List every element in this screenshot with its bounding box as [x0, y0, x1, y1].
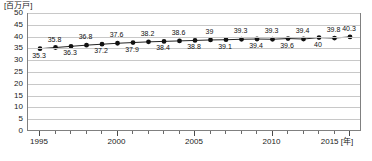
- x-axis-minor-tick: [70, 131, 71, 134]
- data-point-label: 39.4: [296, 27, 310, 34]
- x-axis-minor-tick: [132, 131, 133, 134]
- y-axis-tick-label: 15: [1, 92, 23, 100]
- y-axis-tick-label: 35: [1, 44, 23, 52]
- x-axis-minor-tick: [241, 131, 242, 134]
- x-axis-ticks: [27, 131, 361, 136]
- x-axis-minor-tick: [148, 131, 149, 134]
- gridline: [28, 96, 360, 97]
- data-point-marker: [146, 39, 151, 44]
- gridline: [28, 60, 360, 61]
- data-point-marker: [100, 42, 105, 47]
- y-axis-tick-label: 20: [1, 80, 23, 88]
- plot-area: [27, 13, 361, 131]
- data-point-label: 38.2: [141, 30, 155, 37]
- x-axis-minor-tick: [179, 131, 180, 134]
- x-axis-tick-label: 2005: [185, 137, 203, 146]
- x-axis-minor-tick: [210, 131, 211, 134]
- y-axis-tick-label: 50: [1, 9, 23, 17]
- y-axis-tick-label: 40: [1, 33, 23, 41]
- x-axis-tick-label: 2010: [263, 137, 281, 146]
- data-point-label: 37.2: [94, 47, 108, 54]
- data-point-marker: [177, 39, 182, 44]
- gridline: [28, 13, 360, 14]
- x-axis-major-tick: [194, 131, 195, 136]
- y-axis-tick-label: 5: [1, 115, 23, 123]
- x-axis-tick-label: 2015 [年]: [321, 137, 353, 146]
- x-axis-minor-tick: [225, 131, 226, 134]
- data-point-marker: [193, 38, 198, 43]
- data-point-marker: [115, 41, 120, 46]
- line-chart: [百万戸] 05101520253035404550 1995200020052…: [0, 0, 372, 161]
- data-point-label: 38.6: [172, 29, 186, 36]
- data-point-marker: [208, 38, 213, 43]
- data-point-label: 36.3: [63, 49, 77, 56]
- x-axis-minor-tick: [86, 131, 87, 134]
- y-axis-tick-label: 45: [1, 21, 23, 29]
- data-point-label: 39: [206, 28, 214, 35]
- y-axis-tick-label: 10: [1, 103, 23, 111]
- gridline: [28, 119, 360, 120]
- data-point-marker: [84, 43, 89, 48]
- x-axis-major-tick: [272, 131, 273, 136]
- y-axis-tick-label: 25: [1, 68, 23, 76]
- data-point-marker: [224, 37, 229, 42]
- data-point-marker: [131, 40, 136, 45]
- data-point-label: 39.8: [327, 26, 341, 33]
- x-axis-major-tick: [349, 131, 350, 136]
- data-point-label: 35.8: [48, 36, 62, 43]
- x-axis-minor-tick: [318, 131, 319, 134]
- y-axis-tick-label: 0: [1, 127, 23, 135]
- data-point-label: 38.8: [187, 43, 201, 50]
- series-svg: [28, 14, 362, 132]
- x-axis-major-tick: [39, 131, 40, 136]
- x-axis-minor-tick: [101, 131, 102, 134]
- y-axis-tick-label: 30: [1, 56, 23, 64]
- x-axis-minor-tick: [256, 131, 257, 134]
- data-point-label: 38.4: [156, 44, 170, 51]
- data-point-label: 40.3: [342, 25, 356, 32]
- x-axis-minor-tick: [334, 131, 335, 134]
- x-axis-minor-tick: [287, 131, 288, 134]
- data-point-label: 39.3: [234, 27, 248, 34]
- gridline: [28, 72, 360, 73]
- x-axis-tick-label: 1995: [30, 137, 48, 146]
- gridline: [28, 107, 360, 108]
- data-point-label: 39.1: [218, 43, 232, 50]
- x-axis-minor-tick: [55, 131, 56, 134]
- x-axis-minor-tick: [163, 131, 164, 134]
- data-point-label: 37.6: [110, 31, 124, 38]
- data-point-label: 36.8: [79, 33, 93, 40]
- data-point-label: 35.3: [32, 52, 46, 59]
- gridline: [28, 25, 360, 26]
- x-axis-minor-tick: [303, 131, 304, 134]
- gridline: [28, 84, 360, 85]
- data-point-label: 39.6: [280, 42, 294, 49]
- data-point-marker: [162, 39, 167, 44]
- data-point-label: 39.4: [249, 42, 263, 49]
- data-point-label: 40: [314, 41, 322, 48]
- data-point-label: 39.3: [265, 27, 279, 34]
- x-axis-tick-label: 2000: [108, 137, 126, 146]
- x-axis-major-tick: [117, 131, 118, 136]
- data-point-label: 37.9: [125, 46, 139, 53]
